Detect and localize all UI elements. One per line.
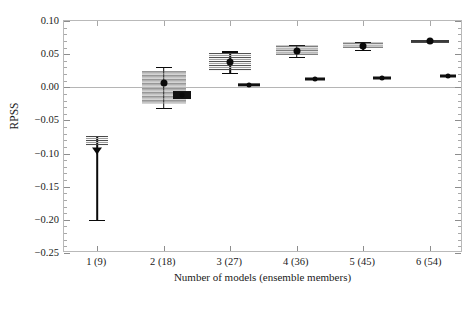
- x-major-tick: [430, 246, 431, 251]
- y-minor-tick-right: [458, 173, 461, 174]
- y-minor-tick-right: [458, 41, 461, 42]
- y-axis-tick-labels: 0.100.050.00−0.05−0.10−0.15−0.20−0.25: [0, 20, 59, 252]
- data-point-triangle: [92, 147, 102, 154]
- x-major-tick: [97, 246, 98, 251]
- spread-band: [142, 71, 186, 104]
- y-minor-tick-right: [458, 107, 461, 108]
- y-tick-label: −0.15: [35, 180, 59, 191]
- y-major-tick: [64, 220, 70, 221]
- x-major-tick: [297, 246, 298, 251]
- y-major-tick-right: [455, 187, 461, 188]
- y-tick-label: 0.10: [41, 15, 59, 26]
- y-major-tick: [64, 154, 70, 155]
- y-minor-tick-right: [458, 140, 461, 141]
- y-minor-tick-right: [458, 200, 461, 201]
- y-minor-tick: [64, 160, 67, 161]
- y-minor-tick: [64, 41, 67, 42]
- y-tick-label: −0.20: [35, 213, 59, 224]
- y-minor-tick-right: [458, 240, 461, 241]
- error-bar-cap-lower: [222, 73, 238, 75]
- y-tick-label: −0.05: [35, 114, 59, 125]
- y-minor-tick: [64, 240, 67, 241]
- y-minor-tick-right: [458, 193, 461, 194]
- y-minor-tick: [64, 34, 67, 35]
- chart-figure: RPSS 0.100.050.00−0.05−0.10−0.15−0.20−0.…: [0, 0, 473, 313]
- y-minor-tick: [64, 140, 67, 141]
- y-minor-tick: [64, 226, 67, 227]
- y-minor-tick-right: [458, 180, 461, 181]
- y-minor-tick-right: [458, 246, 461, 247]
- y-tick-label: −0.10: [35, 147, 59, 158]
- y-minor-tick: [64, 101, 67, 102]
- y-minor-tick: [64, 127, 67, 128]
- y-minor-tick: [64, 246, 67, 247]
- y-minor-tick-right: [458, 134, 461, 135]
- y-minor-tick: [64, 193, 67, 194]
- y-major-tick-right: [455, 87, 461, 88]
- y-minor-tick-right: [458, 61, 461, 62]
- x-major-tick-top: [230, 21, 231, 26]
- y-minor-tick: [64, 74, 67, 75]
- x-major-tick: [230, 246, 231, 251]
- y-major-tick: [64, 87, 70, 88]
- y-major-tick: [64, 187, 70, 188]
- x-major-tick: [164, 246, 165, 251]
- x-tick-label: 5 (45): [350, 256, 375, 267]
- x-axis-tick-labels: 1 (9)2 (18)3 (27)4 (36)5 (45)6 (54): [63, 254, 462, 272]
- y-minor-tick: [64, 207, 67, 208]
- y-minor-tick-right: [458, 114, 461, 115]
- y-minor-tick-right: [458, 127, 461, 128]
- data-point-circle: [426, 37, 433, 44]
- y-major-tick-right: [455, 120, 461, 121]
- y-minor-tick-right: [458, 233, 461, 234]
- error-bar-cap-lower: [289, 57, 305, 59]
- data-point-circle: [227, 59, 234, 66]
- y-minor-tick: [64, 48, 67, 49]
- y-minor-tick: [64, 200, 67, 201]
- x-major-tick: [363, 246, 364, 251]
- y-minor-tick: [64, 134, 67, 135]
- y-minor-tick-right: [458, 207, 461, 208]
- y-tick-label: 0.05: [41, 48, 59, 59]
- x-tick-label: 3 (27): [217, 256, 242, 267]
- y-major-tick-right: [455, 154, 461, 155]
- data-point-circle: [360, 42, 367, 49]
- y-major-tick-right: [455, 220, 461, 221]
- y-minor-tick: [64, 61, 67, 62]
- reference-marker-center: [379, 76, 384, 81]
- x-tick-label: 4 (36): [283, 256, 308, 267]
- y-minor-tick-right: [458, 67, 461, 68]
- x-tick-label: 6 (54): [416, 256, 441, 267]
- data-point-circle: [293, 47, 300, 54]
- y-minor-tick-right: [458, 213, 461, 214]
- y-minor-tick: [64, 107, 67, 108]
- error-bar-cap-lower: [355, 50, 371, 52]
- error-bar-cap-lower: [156, 108, 172, 110]
- y-major-tick-right: [455, 21, 461, 22]
- plot-area: [63, 20, 462, 252]
- y-major-tick: [64, 54, 70, 55]
- y-minor-tick: [64, 233, 67, 234]
- y-minor-tick: [64, 28, 67, 29]
- x-tick-label: 2 (18): [150, 256, 175, 267]
- y-minor-tick: [64, 94, 67, 95]
- y-minor-tick-right: [458, 160, 461, 161]
- y-minor-tick-right: [458, 101, 461, 102]
- x-major-tick-top: [297, 21, 298, 26]
- y-minor-tick-right: [458, 147, 461, 148]
- error-bar-cap-lower: [89, 220, 105, 222]
- data-point-circle: [160, 80, 167, 87]
- zero-reference-line: [64, 87, 461, 88]
- y-minor-tick: [64, 81, 67, 82]
- reference-marker-center: [446, 74, 451, 79]
- y-minor-tick: [64, 180, 67, 181]
- y-minor-tick-right: [458, 74, 461, 75]
- x-major-tick-top: [363, 21, 364, 26]
- error-bar-cap-upper: [156, 67, 172, 69]
- y-minor-tick-right: [458, 94, 461, 95]
- y-major-tick: [64, 120, 70, 121]
- x-axis-title: Number of models (ensemble members): [63, 271, 462, 283]
- y-major-tick-right: [455, 54, 461, 55]
- y-tick-label: −0.25: [35, 247, 59, 258]
- reference-marker-center: [246, 82, 251, 87]
